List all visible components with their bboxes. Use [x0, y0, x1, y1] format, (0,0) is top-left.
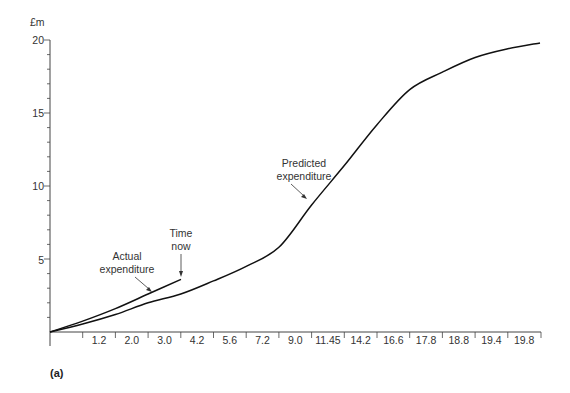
y-tick-label-10: 10 [32, 180, 44, 192]
time-now-arrow-icon [179, 254, 183, 277]
actual-expenditure-arrow-icon [135, 277, 152, 292]
predicted-expenditure-arrow-icon [291, 184, 307, 199]
x-tick-label: 16.6 [383, 334, 404, 346]
time-now-label-line1: Time [170, 227, 193, 239]
y-ticks [44, 40, 50, 317]
x-tick-label: 19.4 [481, 334, 502, 346]
x-tick-label: 11.45 [315, 334, 341, 346]
x-tick-label: 1.2 [92, 334, 107, 346]
actual-expenditure-curve [50, 279, 181, 332]
x-tick-label: 9.0 [288, 334, 303, 346]
actual-expenditure-label-line1: Actual [112, 250, 141, 262]
x-tick-label: 2.0 [124, 334, 139, 346]
expenditure-chart: 1.22.03.04.25.67.29.011.4514.216.617.818… [0, 0, 570, 393]
x-tick-label: 3.0 [157, 334, 172, 346]
actual-expenditure-label-line2: expenditure [100, 263, 155, 275]
x-tick-label: 7.2 [255, 334, 270, 346]
x-tick-label: 18.8 [449, 334, 470, 346]
x-tick-label: 17.8 [416, 334, 437, 346]
predicted-expenditure-label-line2: expenditure [277, 170, 332, 182]
x-tick-label: 5.6 [223, 334, 238, 346]
axes [50, 40, 541, 346]
time-now-label-line2: now [171, 240, 191, 252]
y-tick-label-15: 15 [32, 107, 44, 119]
x-tick-label: 4.2 [190, 334, 205, 346]
x-ticks: 1.22.03.04.25.67.29.011.4514.216.617.818… [83, 332, 541, 346]
predicted-expenditure-label-line1: Predicted [282, 157, 327, 169]
y-tick-label-20: 20 [32, 34, 44, 46]
x-tick-label: 14.2 [350, 334, 371, 346]
y-axis-label: £m [30, 16, 45, 28]
y-tick-label-5: 5 [38, 254, 44, 266]
x-tick-label: 19.8 [514, 334, 535, 346]
panel-label: (a) [50, 367, 64, 379]
